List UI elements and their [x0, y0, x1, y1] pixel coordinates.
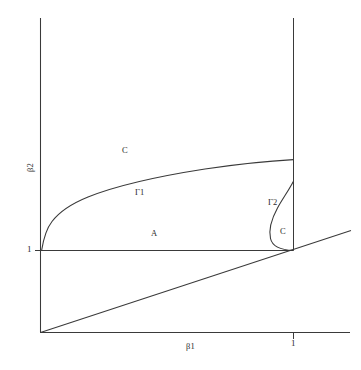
curve-label-gamma2: Γ2 [268, 198, 277, 207]
gamma2-curve [270, 182, 293, 251]
region-label-a: A [151, 229, 157, 238]
y-axis-tick-label-1: 1 [27, 245, 32, 254]
x-axis-tick-label-1: 1 [291, 339, 296, 348]
y-axis-label: β2 [26, 163, 35, 172]
diagonal-line [41, 231, 352, 333]
figure-canvas: β2 β1 1 1 C A C Γ1 Γ2 [0, 0, 361, 370]
curve-label-gamma1: Γ1 [135, 188, 144, 197]
x-axis-label: β1 [186, 342, 195, 351]
gamma1-curve [42, 160, 294, 251]
region-label-c-upper: C [122, 146, 128, 155]
region-label-c-loop: C [280, 227, 286, 236]
plot-area [0, 0, 361, 370]
